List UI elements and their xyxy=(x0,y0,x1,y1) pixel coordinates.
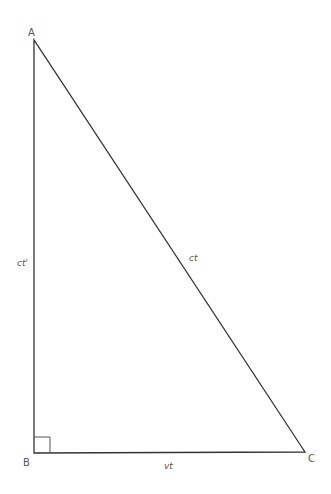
triangle-abc xyxy=(34,40,305,453)
edge-label-bc: vt xyxy=(164,461,173,471)
edge-label-ac: ct xyxy=(189,253,198,263)
vertex-label-b: B xyxy=(23,457,30,468)
triangle-diagram: A B C ct' ct vt xyxy=(0,0,331,494)
vertex-label-c: C xyxy=(308,453,315,464)
right-angle-marker xyxy=(34,437,50,453)
vertex-label-a: A xyxy=(28,27,35,38)
edge-label-ab: ct' xyxy=(17,258,28,268)
